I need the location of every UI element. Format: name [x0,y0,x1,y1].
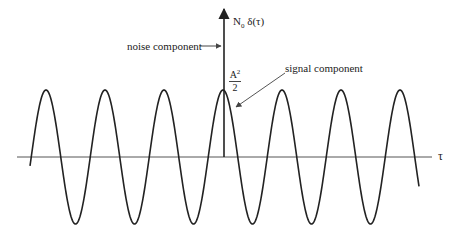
autocorrelation-diagram [0,0,459,236]
impulse-label: N0 δ(τ) [233,16,264,30]
peak-value-fraction: A2 2 [229,69,241,93]
signal-pointer-arrow [236,73,285,107]
tau-axis-label: τ [438,150,443,162]
signal-component-label: signal component [285,63,363,74]
noise-component-label: noise component [127,41,202,52]
